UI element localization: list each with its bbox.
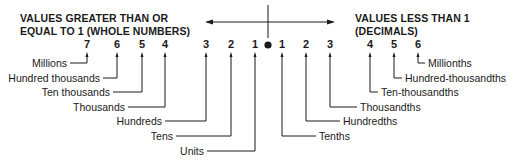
digit-hundreds: 3 (200, 38, 212, 50)
label-millionths: Millionths (428, 57, 472, 69)
label-thousands: Thousands (73, 101, 125, 113)
label-tenths: Tenths (319, 130, 350, 142)
digit-hundred-thousands: 6 (111, 38, 123, 50)
label-ten-thousands: Ten thousands (42, 86, 110, 98)
digit-ten-thousands: 5 (136, 38, 148, 50)
digit-millionths: 6 (412, 38, 424, 50)
label-millions: Millions (32, 57, 67, 69)
digit-hundredths: 2 (300, 38, 312, 50)
digit-millions: 7 (81, 38, 93, 50)
label-hundred-thousandths: Hundred-thousandths (405, 72, 506, 84)
label-tens: Tens (151, 130, 173, 142)
label-units: Units (180, 145, 204, 157)
digit-thousandths: 3 (324, 38, 336, 50)
digit-tens: 2 (225, 38, 237, 50)
digit-thousands: 4 (159, 38, 171, 50)
decimal-point-dot (264, 41, 271, 48)
digit-hundred-thousandths: 5 (388, 38, 400, 50)
digit-ten-thousandths: 4 (364, 38, 376, 50)
digit-tenths: 1 (276, 38, 288, 50)
label-hundreds: Hundreds (116, 115, 162, 127)
label-hundredths: Hundredths (343, 115, 397, 127)
digit-units: 1 (249, 38, 261, 50)
label-hundred-thousands: Hundred thousands (8, 72, 100, 84)
label-ten-thousandths: Ten-thousandths (381, 86, 459, 98)
label-thousandths: Thousandths (360, 101, 421, 113)
